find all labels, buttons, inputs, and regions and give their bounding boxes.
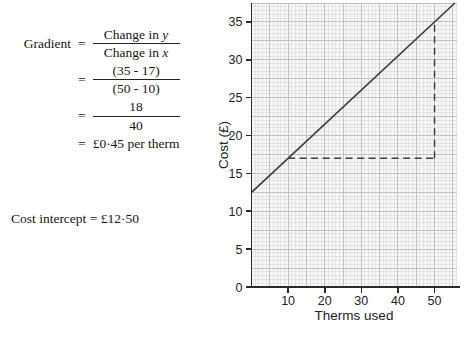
y-axis-label: Cost (£) (216, 121, 231, 169)
x-tick-label: 10 (281, 294, 295, 308)
y-tick-label: 25 (229, 91, 243, 105)
x-tick-label: 50 (428, 294, 442, 308)
cost-vs-therms-graph: 051015202530351020304050Therms usedCost … (0, 0, 473, 338)
x-tick-label: 20 (318, 294, 332, 308)
x-tick-label: 30 (354, 294, 368, 308)
x-tick-label: 40 (391, 294, 405, 308)
x-axis-label: Therms used (315, 308, 394, 323)
y-tick-label: 30 (229, 53, 243, 67)
y-tick-label: 0 (236, 281, 243, 295)
y-tick-label: 10 (229, 205, 243, 219)
textbook-figure: Gradient = Change in y Change in x = (35… (0, 0, 473, 338)
y-tick-label: 5 (236, 243, 243, 257)
y-tick-label: 35 (229, 15, 243, 29)
